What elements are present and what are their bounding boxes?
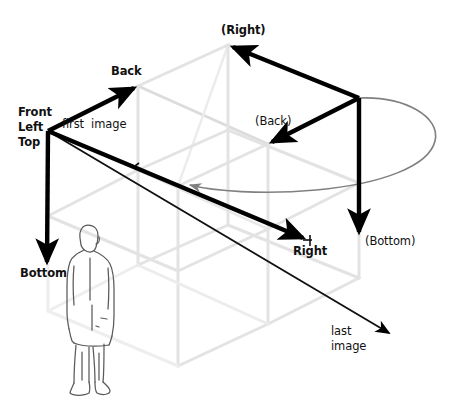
label-bottom-paren: (Bottom) — [365, 235, 415, 247]
diagram-canvas: Front Left Top first image Back (Right) … — [0, 0, 449, 406]
diagram-vector-layer — [0, 0, 449, 406]
right-paren-axis-line — [233, 47, 359, 98]
label-last-image-line2: image — [331, 340, 366, 352]
label-first-image: first image — [62, 118, 126, 130]
label-origin-front: Front — [18, 106, 52, 118]
human-figure-silhouette — [67, 225, 114, 395]
label-last-image-line1: last — [331, 325, 351, 337]
bottom-axis-line — [47, 131, 48, 262]
label-origin-top: Top — [18, 136, 40, 148]
label-origin-left: Left — [18, 121, 43, 133]
label-right: Right — [293, 245, 327, 257]
wireframe-volume — [48, 45, 359, 366]
label-back: Back — [111, 65, 142, 77]
label-bottom: Bottom — [20, 267, 67, 279]
label-right-paren: (Right) — [221, 24, 266, 36]
label-back-paren: (Back) — [255, 115, 291, 127]
